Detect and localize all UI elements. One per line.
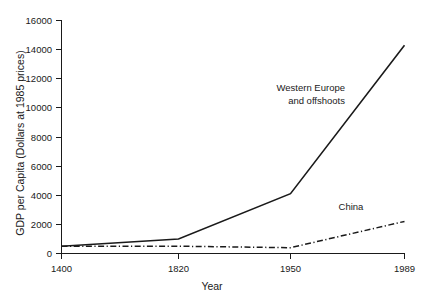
y-tick-label-2000: 2000 [31,219,52,230]
x-tick-label-1989: 1989 [394,263,415,274]
series-annotation-china: China [339,201,365,212]
line-chart: 16000 14000 12000 10000 8000 6000 4000 2… [0,0,426,301]
series-annotation-western-europe-line2: and offshoots [288,95,345,106]
series-annotation-western-europe-line1: Western Europe [277,82,345,93]
x-tick-label-1400: 1400 [51,263,72,274]
y-tick-label-14000: 14000 [26,44,52,55]
y-tick-label-4000: 4000 [31,190,52,201]
chart-figure: 16000 14000 12000 10000 8000 6000 4000 2… [0,0,426,301]
y-tick-label-10000: 10000 [26,102,52,113]
y-tick-label-0: 0 [47,248,52,259]
x-axis-title: Year [201,280,223,292]
y-tick-label-12000: 12000 [26,73,52,84]
x-tick-label-1820: 1820 [168,263,189,274]
y-tick-label-8000: 8000 [31,132,52,143]
y-tick-label-16000: 16000 [26,15,52,26]
x-tick-label-1950: 1950 [280,263,301,274]
y-axis-title: GDP per Capita (Dollars at 1985 prices) [14,50,26,235]
series-line-western-europe [62,45,405,246]
y-tick-label-6000: 6000 [31,161,52,172]
